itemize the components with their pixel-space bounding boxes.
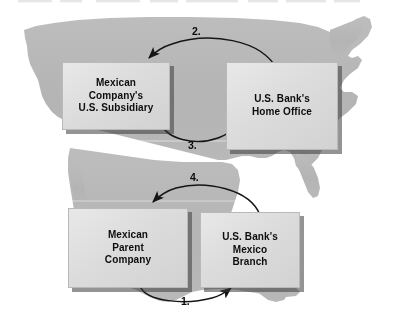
step-label-1: 1. <box>181 295 190 307</box>
box-mexican-parent-company[interactable]: Mexican Parent Company <box>68 208 188 288</box>
box-mexican-us-subsidiary[interactable]: Mexican Company's U.S. Subsidiary <box>62 62 170 130</box>
top-edge-text-remnant <box>18 0 360 2</box>
step-label-2: 2. <box>192 25 201 37</box>
box-us-bank-mexico-branch[interactable]: U.S. Bank's Mexico Branch <box>200 212 300 288</box>
diagram-canvas: Mexican Company's U.S. Subsidiary U.S. B… <box>0 0 402 335</box>
box-us-bank-home-office-label: U.S. Bank's Home Office <box>247 93 317 119</box>
box-us-bank-home-office[interactable]: U.S. Bank's Home Office <box>226 62 338 150</box>
box-mexican-us-subsidiary-label: Mexican Company's U.S. Subsidiary <box>63 77 169 115</box>
step-label-3: 3. <box>188 139 197 151</box>
step-label-4: 4. <box>190 171 199 183</box>
box-us-bank-mexico-branch-label: U.S. Bank's Mexico Branch <box>217 231 283 269</box>
box-mexican-parent-company-label: Mexican Parent Company <box>100 229 156 267</box>
